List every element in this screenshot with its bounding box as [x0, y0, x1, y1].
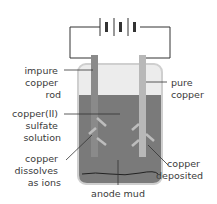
- electrolysis-diagram: impure copper rod pure copper copper(II)…: [0, 0, 217, 204]
- label-anode-mud: anode mud: [91, 188, 145, 199]
- label-pure-copper: pure copper: [171, 77, 204, 100]
- circuit-wire: [70, 27, 100, 58]
- label-copper-deposited: copper deposited: [156, 158, 203, 181]
- battery-icon: [100, 18, 136, 36]
- pure-copper-cathode: [139, 55, 146, 157]
- label-copper-dissolves: copper dissolves as ions: [15, 153, 62, 188]
- label-solution: copper(II) sulfate solution: [12, 108, 61, 143]
- label-impure-copper-rod: impure copper rod: [24, 65, 61, 100]
- circuit-wire-right: [140, 27, 170, 58]
